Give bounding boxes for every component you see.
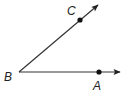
angle-diagram: B A C	[0, 0, 130, 96]
ray-bc	[19, 5, 98, 72]
point-a	[96, 69, 101, 74]
point-c	[77, 17, 82, 22]
label-a: A	[92, 79, 101, 93]
label-b: B	[4, 70, 12, 84]
label-c: C	[67, 4, 76, 18]
